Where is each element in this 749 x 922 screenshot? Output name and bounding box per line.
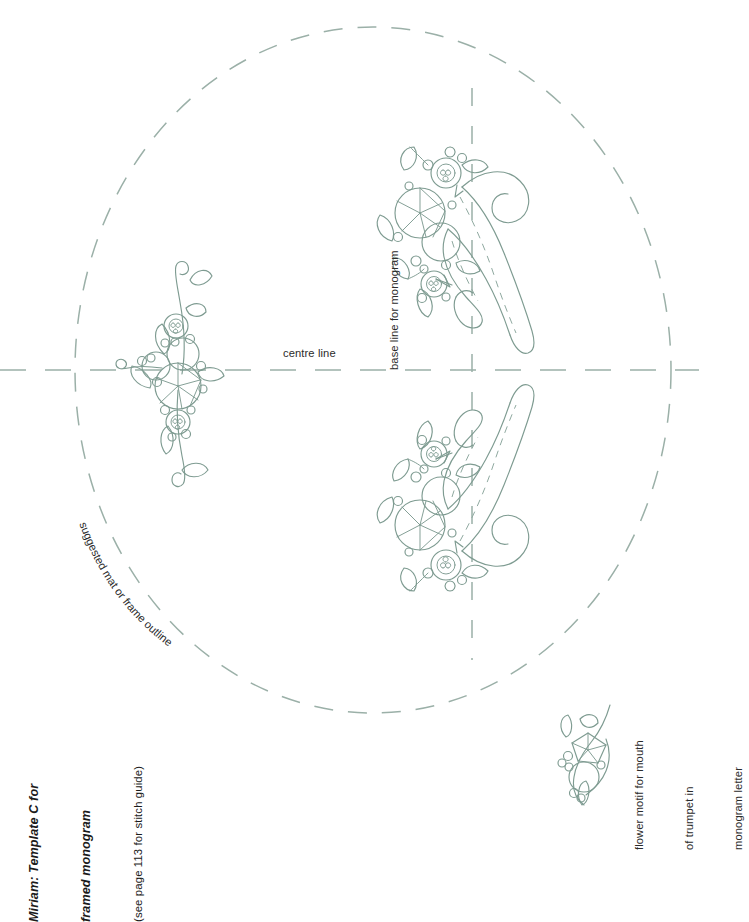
flower-motif-caption: flower motif for mouth of trumpet in mon…	[598, 700, 749, 850]
title-line-1: Miriam: Template C for	[26, 732, 42, 922]
title-subtitle: (see page 113 for stitch guide)	[131, 732, 146, 922]
flower-caption-line-3: monogram letter	[730, 700, 747, 850]
base-line-label: base line for monogram	[388, 250, 400, 370]
flower-caption-line-2: of trumpet in	[681, 700, 698, 850]
title-block: Miriam: Template C for framed monogram (…	[0, 732, 182, 922]
centre-line-label: centre line	[283, 347, 336, 359]
flower-caption-line-1: flower motif for mouth	[631, 700, 648, 850]
title-line-2: framed monogram	[78, 732, 94, 922]
